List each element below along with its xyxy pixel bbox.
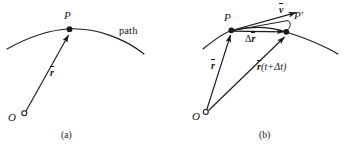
label-origin-b: O — [192, 111, 200, 122]
point-p-marker-a — [67, 26, 73, 32]
label-vector-r-b: r — [211, 61, 215, 71]
panel-a-graphics — [7, 26, 144, 115]
figure-canvas — [0, 0, 345, 158]
vector-r-a — [26, 35, 69, 112]
label-vector-r-a: r — [50, 68, 54, 78]
figure-root: P path r O (a) P P′ v Δr r r(t+Δt) O (b) — [0, 0, 345, 158]
label-path-a: path — [119, 26, 137, 37]
vector-r-b — [207, 35, 231, 111]
label-point-p-b: P — [224, 12, 231, 23]
point-p-prime-marker — [283, 29, 289, 35]
point-p-marker-b — [228, 27, 234, 33]
caption-a: (a) — [61, 131, 72, 141]
origin-marker-a — [22, 111, 27, 116]
label-point-p-a: P — [64, 10, 71, 21]
r-args: (t+Δt) — [261, 61, 286, 72]
label-point-p-prime: P′ — [294, 10, 303, 21]
origin-marker-b — [203, 110, 208, 115]
r-vector-symbol: r — [257, 62, 261, 72]
label-vector-v: v — [279, 5, 284, 15]
vector-delta-r — [233, 31, 284, 32]
caption-b: (b) — [259, 131, 270, 141]
delta-r-vector-symbol: r — [252, 34, 256, 44]
label-delta-r: Δr — [245, 34, 256, 44]
vector-r-t-plus-delta-t — [209, 37, 285, 111]
label-origin-a: O — [8, 112, 16, 123]
label-r-t-plus-delta-t: r(t+Δt) — [257, 62, 286, 72]
